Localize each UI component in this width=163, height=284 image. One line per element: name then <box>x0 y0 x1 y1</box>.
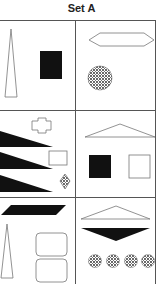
shape-grid <box>0 0 163 284</box>
grid-lines <box>0 20 156 284</box>
panel-bottom-right <box>81 206 155 268</box>
outline-cross <box>32 118 51 133</box>
outline-rounded-rectangle <box>36 233 67 256</box>
black-square <box>40 51 62 79</box>
outline-rounded-rectangle <box>36 259 67 282</box>
outline-wide-triangle <box>81 206 150 219</box>
panel-bottom-left <box>1 205 67 282</box>
outline-wide-triangle <box>85 124 155 137</box>
dotted-circle <box>88 66 112 90</box>
dotted-diamond <box>60 174 70 189</box>
panel-top-right <box>88 33 154 90</box>
black-inverted-triangle <box>81 228 150 241</box>
panel-middle-right <box>85 124 155 178</box>
dotted-circle <box>142 255 155 268</box>
outline-square <box>129 155 150 178</box>
black-square <box>89 155 111 178</box>
outline-hexagon <box>89 33 154 46</box>
black-wedge <box>0 152 53 169</box>
black-parallelogram <box>1 205 66 215</box>
dotted-circle <box>89 255 102 268</box>
dotted-circle <box>125 255 138 268</box>
outline-rectangle <box>49 151 67 165</box>
tall-outline-triangle <box>5 29 17 97</box>
black-wedge <box>0 175 53 192</box>
panel-middle-left <box>0 118 70 192</box>
panel-top-left <box>5 29 62 97</box>
dotted-circle <box>107 255 120 268</box>
tall-outline-triangle <box>1 224 13 278</box>
